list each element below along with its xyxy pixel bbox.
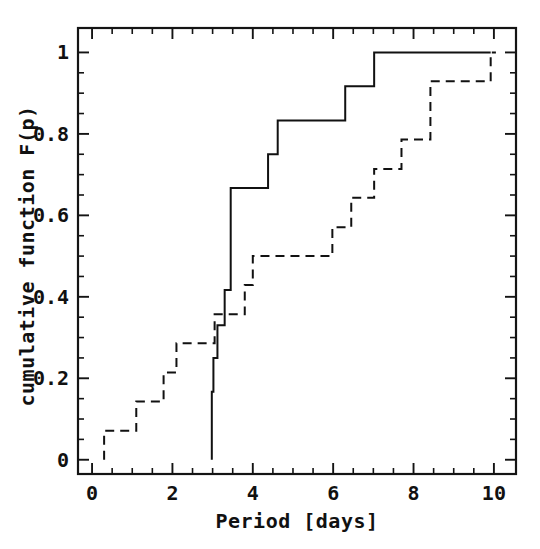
x-tick-label: 10 [482,481,506,505]
tick-labels: 024681000.20.40.60.81 [33,40,506,505]
x-tick-label: 2 [166,481,178,505]
x-tick-label: 0 [86,481,98,505]
data-series-layer [104,52,496,459]
x-axis-label: Period [days] [215,509,378,533]
x-tick-label: 6 [327,481,339,505]
y-tick-label: 0 [57,448,69,472]
chart-figure: 024681000.20.40.60.81 Period [days] cumu… [0,0,540,549]
series-dashed-curve [104,52,496,459]
x-tick-label: 4 [247,481,259,505]
y-tick-label: 1 [57,40,69,64]
chart-plot-area: 024681000.20.40.60.81 Period [days] cumu… [0,0,540,549]
tick-marks [78,28,516,474]
y-axis-label: cumulative function F(p) [15,106,39,407]
axis-titles: Period [days] cumulative function F(p) [15,106,379,533]
plot-frame [78,28,516,474]
x-tick-label: 8 [408,481,420,505]
axis-frame [78,28,516,474]
